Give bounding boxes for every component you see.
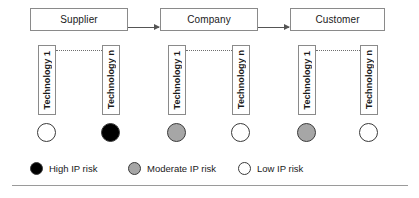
technology-box-company-last[interactable]: Technology n: [232, 45, 250, 115]
risk-indicator-company-first[interactable]: [167, 123, 186, 142]
technology-box-company-first[interactable]: Technology 1: [168, 45, 186, 115]
legend-item-low-risk: Low IP risk: [238, 159, 303, 177]
legend: High IP risk Moderate IP risk Low IP ris…: [0, 159, 419, 177]
technology-group-supplier: Technology 1 Technology n: [30, 45, 135, 145]
legend-label: High IP risk: [49, 163, 97, 174]
technology-group-customer: Technology 1 Technology n: [290, 45, 390, 145]
technology-group-company: Technology 1 Technology n: [160, 45, 265, 145]
risk-indicator-customer-first[interactable]: [297, 123, 316, 142]
risk-indicator-supplier-first[interactable]: [37, 123, 56, 142]
actor-box-customer[interactable]: Customer: [290, 8, 385, 31]
technology-label: Technology 1: [298, 51, 316, 110]
actor-box-company[interactable]: Company: [160, 8, 258, 31]
diagram-canvas: Supplier Company Customer Technology 1 T…: [0, 0, 419, 198]
dotted-connector: [316, 50, 360, 51]
legend-item-moderate-risk: Moderate IP risk: [128, 159, 216, 177]
technology-label: Technology n: [360, 50, 378, 109]
technology-box-customer-first[interactable]: Technology 1: [298, 45, 316, 115]
technology-label: Technology 1: [38, 51, 56, 110]
risk-indicator-supplier-last[interactable]: [101, 123, 120, 142]
risk-indicator-customer-last[interactable]: [359, 123, 378, 142]
legend-label: Moderate IP risk: [147, 163, 216, 174]
legend-dot-low-risk-icon: [238, 162, 251, 175]
risk-indicator-company-last[interactable]: [231, 123, 250, 142]
dotted-connector: [186, 50, 232, 51]
technology-box-customer-last[interactable]: Technology n: [360, 45, 378, 115]
arrow-head-icon: [284, 24, 290, 30]
technology-label: Technology n: [232, 50, 250, 109]
legend-item-high-risk: High IP risk: [30, 159, 97, 177]
legend-label: Low IP risk: [257, 163, 303, 174]
actor-label: Supplier: [60, 14, 98, 25]
actor-label: Company: [187, 14, 231, 25]
bottom-divider: [12, 185, 408, 186]
actor-box-supplier[interactable]: Supplier: [30, 8, 128, 31]
actor-label: Customer: [315, 14, 359, 25]
technology-label: Technology n: [102, 50, 120, 109]
technology-box-supplier-last[interactable]: Technology n: [102, 45, 120, 115]
legend-dot-high-risk-icon: [30, 162, 43, 175]
legend-dot-moderate-risk-icon: [128, 162, 141, 175]
technology-label: Technology 1: [168, 51, 186, 110]
arrow-company-to-customer: [258, 27, 289, 29]
technology-box-supplier-first[interactable]: Technology 1: [38, 45, 56, 115]
arrow-head-icon: [154, 24, 160, 30]
actor-row: Supplier Company Customer: [0, 8, 419, 32]
dotted-connector: [56, 50, 102, 51]
arrow-supplier-to-company: [128, 27, 159, 29]
